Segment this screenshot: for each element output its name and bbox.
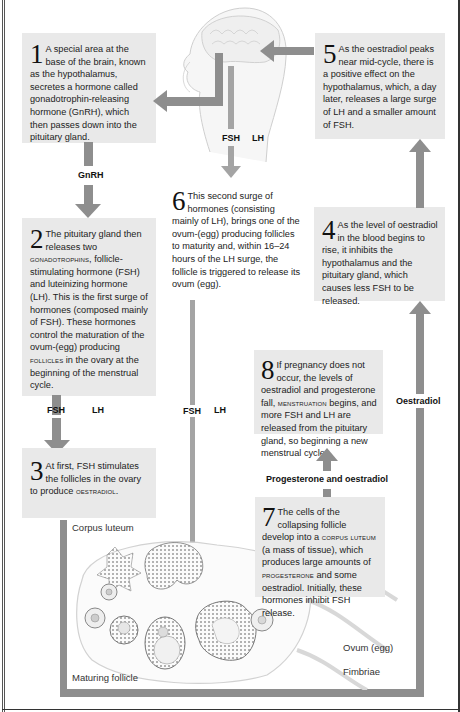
step-number: 4 xyxy=(322,220,336,241)
label-lh-left: LH xyxy=(92,405,104,415)
step-1-text: A special area at the base of the brain,… xyxy=(30,44,146,142)
pituitary-down-bar xyxy=(228,66,234,129)
label-fsh-top: FSH xyxy=(222,133,240,143)
step-3-text: . xyxy=(116,486,119,496)
fsh-down-bar xyxy=(228,146,234,167)
label-fsh-mid: FSH xyxy=(183,405,201,417)
step-8-box: 8If pregnancy does not occur, the levels… xyxy=(254,350,383,434)
caption-ovum: Ovum (egg) xyxy=(343,642,393,653)
step-7-box: 7The cells of the collapsing follicle de… xyxy=(255,497,385,597)
step-5-text: As the oestradiol peaks near mid-cycle, … xyxy=(323,44,436,130)
step-number: 3 xyxy=(30,461,44,482)
gnrh-bar-top xyxy=(84,142,93,166)
step-2-box: 2The pituitary gland then releases two g… xyxy=(22,218,156,396)
label-progesterone-oestradiol: Progesterone and oestradiol xyxy=(266,474,388,484)
arrow-hypothalamus-horizontal xyxy=(166,97,223,106)
arrow-head-up xyxy=(409,301,431,314)
label-lh-top: LH xyxy=(252,133,264,143)
arrow-to-hypothalamus-bar xyxy=(272,47,314,55)
step-1-box: 1A special area at the base of the brain… xyxy=(22,33,156,143)
arrow-head-down xyxy=(75,204,101,218)
step-2-text: , follicle-stimulating hormone (FSH) and… xyxy=(30,254,148,352)
term-follicles: follicles xyxy=(30,355,63,365)
step-number: 8 xyxy=(261,360,275,381)
ovary-loop-left xyxy=(60,520,67,697)
caption-maturing-follicle: Maturing follicle xyxy=(72,672,138,683)
step-4-text: As the level of oestradiol in the blood … xyxy=(322,220,438,306)
term-gonadotrophins: gonadotrophins xyxy=(30,254,89,264)
term-menstruation: menstruation xyxy=(278,398,327,408)
step-7-text: (a mass of tissue), which produces large… xyxy=(262,545,371,568)
label-fsh-left: FSH xyxy=(47,405,65,415)
term-oestradiol: oestradiol xyxy=(76,486,116,496)
arrow-head-up xyxy=(409,139,431,152)
label-oestradiol: Oestradiol xyxy=(396,394,441,408)
step-3-box: 3At first, FSH stimulates the follicles … xyxy=(22,448,156,518)
frame-left-border xyxy=(2,0,5,712)
arrow-head-left xyxy=(260,40,274,62)
arrow-7-to-8-bar-top xyxy=(323,460,331,471)
step-number: 6 xyxy=(172,191,186,212)
step-6-text: This second surge of hormones (consistin… xyxy=(172,191,300,289)
term-corpus-luteum: corpus luteum xyxy=(322,532,376,542)
label-lh-mid: LH xyxy=(214,405,226,415)
step-5-box: 5As the oestradiol peaks near mid-cycle,… xyxy=(315,33,445,139)
ovary-loop-bottom xyxy=(60,689,424,697)
arrow-head-down xyxy=(221,166,241,178)
step-4-box: 4As the level of oestradiol in the blood… xyxy=(314,207,445,301)
left-hormone-bar-bottom xyxy=(52,418,61,442)
arrow-7-to-8-bar-bottom xyxy=(323,489,331,497)
gnrh-bar-bottom xyxy=(84,185,93,205)
caption-fimbriae: Fimbriae xyxy=(343,666,380,677)
arrow-head-left xyxy=(153,90,167,112)
step-number: 2 xyxy=(30,229,44,250)
oestradiol-bar xyxy=(416,313,424,697)
frame-bottom-border xyxy=(2,709,460,710)
term-progesterone: progesterone xyxy=(262,570,314,580)
step-number: 5 xyxy=(323,44,337,65)
arrow-4-to-5-bar xyxy=(416,151,424,208)
step-2-text: The pituitary gland then releases two xyxy=(46,229,142,252)
caption-corpus-luteum: Corpus luteum xyxy=(72,522,134,533)
step-number: 1 xyxy=(30,44,44,65)
step-6-box: 6This second surge of hormones (consisti… xyxy=(172,190,302,290)
step-number: 7 xyxy=(262,507,276,528)
label-gnrh: GnRH xyxy=(78,170,104,180)
